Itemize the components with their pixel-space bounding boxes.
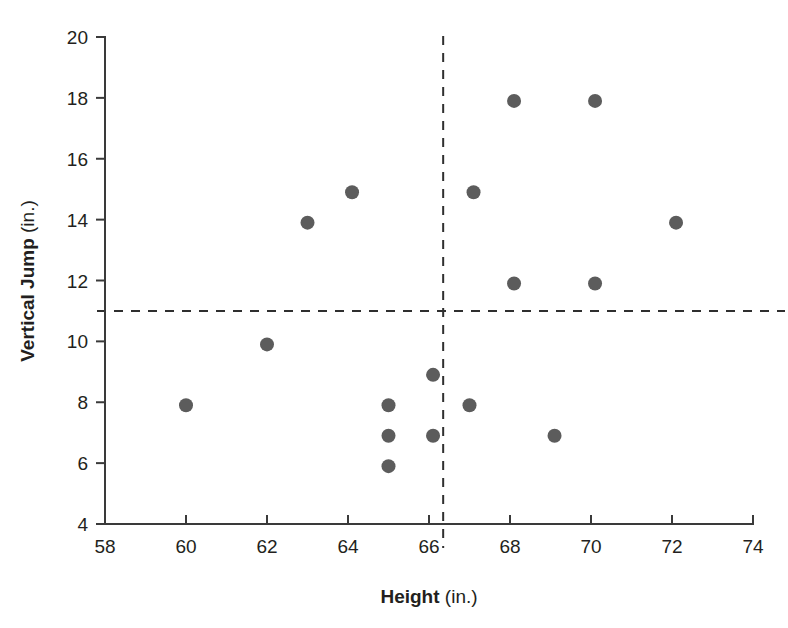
data-point <box>463 398 477 412</box>
x-tick-label: 60 <box>175 536 196 557</box>
data-point <box>588 277 602 291</box>
y-axis-title-unit: (in.) <box>17 200 38 233</box>
data-point <box>467 185 481 199</box>
data-point <box>179 398 193 412</box>
scatterplot-figure: 468101214161820 586062646668707274 Heigh… <box>0 0 788 628</box>
y-axis-title-bold: Vertical Jump <box>17 238 38 362</box>
x-tick-label: 58 <box>94 536 115 557</box>
data-point <box>507 94 521 108</box>
y-tick-label: 8 <box>77 392 88 413</box>
data-point <box>345 185 359 199</box>
scatterplot-canvas: 468101214161820 586062646668707274 Heigh… <box>0 0 788 628</box>
data-point <box>382 398 396 412</box>
data-point <box>548 429 562 443</box>
axes-group <box>105 37 753 524</box>
x-tick-label: 68 <box>499 536 520 557</box>
x-axis-title: Height (in.) <box>380 586 477 607</box>
y-tick-label: 4 <box>77 514 88 535</box>
x-tick-label: 62 <box>256 536 277 557</box>
data-point <box>426 368 440 382</box>
y-tick-label: 6 <box>77 453 88 474</box>
y-tick-label: 10 <box>67 331 88 352</box>
y-tick-label: 18 <box>67 88 88 109</box>
data-point <box>382 459 396 473</box>
x-axis-ticks-group: 586062646668707274 <box>94 515 764 557</box>
data-point <box>588 94 602 108</box>
data-point <box>301 216 315 230</box>
y-tick-label: 20 <box>67 27 88 48</box>
x-tick-label: 70 <box>580 536 601 557</box>
x-axis-title-bold: Height <box>380 586 440 607</box>
data-point <box>426 429 440 443</box>
data-point <box>260 337 274 351</box>
data-point <box>382 429 396 443</box>
data-point <box>507 277 521 291</box>
y-axis-ticks-group: 468101214161820 <box>67 27 105 535</box>
data-point <box>669 216 683 230</box>
y-tick-label: 14 <box>67 210 89 231</box>
reference-lines-group <box>97 36 785 548</box>
x-tick-label: 72 <box>661 536 682 557</box>
svg-text:Vertical Jump (in.): Vertical Jump (in.) <box>17 200 38 362</box>
y-tick-label: 16 <box>67 149 88 170</box>
x-tick-label: 64 <box>337 536 359 557</box>
x-axis-title-unit: (in.) <box>445 586 478 607</box>
data-points-group <box>179 94 683 473</box>
x-tick-label: 66 <box>418 536 439 557</box>
x-tick-label: 74 <box>742 536 764 557</box>
y-tick-label: 12 <box>67 271 88 292</box>
svg-text:Height (in.): Height (in.) <box>380 586 477 607</box>
y-axis-title: Vertical Jump (in.) <box>17 200 38 362</box>
